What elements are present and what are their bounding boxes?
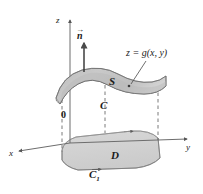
region-d-label: D [111, 150, 119, 161]
normal-vector-label: n → [77, 31, 83, 41]
curve-c1-subscript: 1 [96, 175, 100, 183]
vector-arrow-accent-icon: → [76, 26, 84, 34]
z-axis-label: z [56, 16, 60, 25]
origin-label: 0 [61, 110, 66, 120]
y-axis-label: y [186, 143, 190, 152]
surface-label: S [109, 76, 115, 87]
surface-integral-figure: z n → S z = g(x, y) C 0 x y D C1 [0, 0, 203, 194]
equation-leader-line [131, 61, 146, 84]
surface-equation-label: z = g(x, y) [126, 48, 167, 58]
curve-c-label: C [100, 100, 107, 111]
curve-c1-label: C1 [89, 169, 100, 183]
figure-canvas [0, 0, 203, 194]
x-axis-label: x [9, 149, 13, 158]
surface-point-marker [128, 85, 131, 88]
